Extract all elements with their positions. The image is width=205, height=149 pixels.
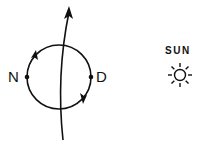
axis-line (61, 12, 69, 140)
point-n (25, 75, 30, 80)
label-n: N (8, 68, 19, 85)
label-sun: SUN (165, 45, 191, 56)
point-d (89, 75, 94, 80)
sun-icon (168, 63, 192, 87)
label-d: D (96, 68, 107, 85)
